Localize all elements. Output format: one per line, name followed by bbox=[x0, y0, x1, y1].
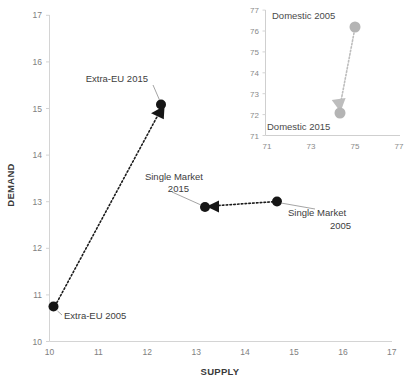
main-x-tick-16: 16 bbox=[338, 347, 348, 357]
label-single-market-2015-line2: 2015 bbox=[168, 183, 189, 194]
label-extra-eu-2005: Extra-EU 2005 bbox=[64, 310, 126, 321]
inset-y-tick-75: 75 bbox=[250, 48, 259, 57]
point-domestic-2015[interactable] bbox=[335, 108, 346, 119]
point-single-market-2015[interactable] bbox=[200, 202, 210, 212]
scatter-figure: 10 11 12 13 14 15 16 17 10 11 12 13 14 1… bbox=[0, 0, 411, 387]
main-x-tick-17: 17 bbox=[387, 347, 397, 357]
leader-extra-eu-2015 bbox=[153, 85, 160, 100]
inset-x-tick-75: 75 bbox=[351, 142, 360, 151]
chart-canvas: 10 11 12 13 14 15 16 17 10 11 12 13 14 1… bbox=[0, 0, 411, 387]
main-y-tickmarks bbox=[46, 15, 50, 341]
main-x-tick-10: 10 bbox=[45, 347, 55, 357]
main-x-tick-11: 11 bbox=[94, 347, 103, 357]
point-extra-eu-2015[interactable] bbox=[156, 100, 166, 110]
inset-x-tick-77: 77 bbox=[395, 142, 404, 151]
inset-y-tick-72: 72 bbox=[250, 111, 259, 120]
inset-y-tick-77: 77 bbox=[250, 6, 259, 15]
extra-eu-connector bbox=[55, 115, 158, 306]
main-y-tick-14: 14 bbox=[33, 150, 43, 160]
main-y-tick-10: 10 bbox=[33, 337, 43, 347]
label-single-market-2005-line2: 2005 bbox=[330, 220, 351, 231]
main-x-tick-12: 12 bbox=[143, 347, 153, 357]
inset-y-tick-76: 76 bbox=[250, 27, 259, 36]
single-market-connector bbox=[218, 202, 277, 206]
main-y-tick-11: 11 bbox=[33, 290, 42, 300]
x-axis-title: SUPPLY bbox=[201, 366, 240, 377]
leader-extra-eu-2005 bbox=[58, 311, 63, 315]
main-x-tick-13: 13 bbox=[191, 347, 201, 357]
label-single-market-2005-line1: Single Market bbox=[288, 207, 346, 218]
main-y-tick-17: 17 bbox=[33, 10, 43, 20]
main-y-tick-13: 13 bbox=[33, 197, 43, 207]
label-extra-eu-2015: Extra-EU 2015 bbox=[86, 73, 148, 84]
main-y-tick-16: 16 bbox=[33, 57, 43, 67]
main-x-tick-14: 14 bbox=[240, 347, 250, 357]
point-domestic-2005[interactable] bbox=[350, 22, 361, 33]
inset-x-tick-73: 73 bbox=[307, 142, 316, 151]
inset-y-tick-71: 71 bbox=[250, 132, 259, 141]
main-y-tick-12: 12 bbox=[33, 243, 43, 253]
main-x-tick-15: 15 bbox=[289, 347, 299, 357]
label-domestic-2005: Domestic 2005 bbox=[272, 10, 335, 21]
inset-x-tick-71: 71 bbox=[263, 142, 272, 151]
main-y-tick-15: 15 bbox=[33, 104, 43, 114]
label-domestic-2015: Domestic 2015 bbox=[267, 121, 330, 132]
inset-y-tick-73: 73 bbox=[250, 90, 259, 99]
point-extra-eu-2005[interactable] bbox=[49, 302, 59, 312]
point-single-market-2005[interactable] bbox=[272, 197, 282, 207]
inset-y-tick-74: 74 bbox=[250, 69, 259, 78]
y-axis-title: DEMAND bbox=[5, 163, 16, 207]
label-single-market-2015-line1: Single Market bbox=[145, 171, 203, 182]
inset-chart: 71 72 73 74 75 76 77 71 73 75 77 Domesti… bbox=[238, 2, 410, 154]
